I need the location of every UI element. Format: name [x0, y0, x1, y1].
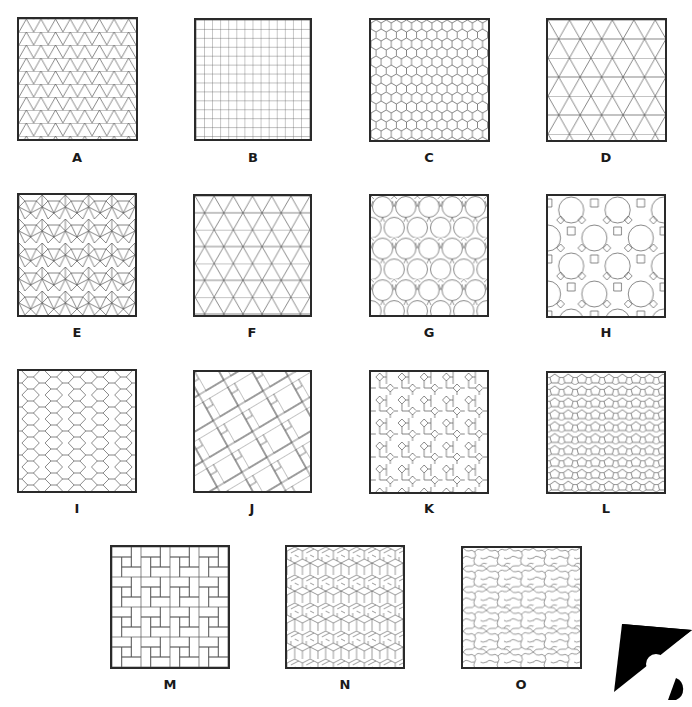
tile-j: [193, 370, 312, 493]
truncated-trihexagonal-pattern: [548, 196, 664, 316]
label-j: J: [232, 501, 272, 516]
hexagonal-pattern: [371, 20, 488, 140]
pythagorean-pattern: [195, 372, 310, 491]
trihexagonal-large-pattern: [548, 20, 665, 140]
tile-b: [194, 18, 312, 141]
label-n: N: [325, 677, 365, 692]
square-grid-pattern: [196, 20, 310, 139]
tile-f: [193, 194, 312, 317]
label-m: M: [150, 677, 190, 692]
label-c: C: [409, 150, 449, 165]
basketweave-pattern: [112, 547, 228, 667]
label-b: B: [233, 150, 273, 165]
tile-e: [17, 193, 137, 317]
label-f: F: [232, 325, 272, 340]
tile-n: [285, 545, 405, 669]
curved-escher-pattern: [463, 548, 580, 667]
interlocking-hexagonal-pattern: [287, 547, 403, 667]
tile-m: [110, 545, 230, 669]
tile-l: [546, 371, 666, 494]
logo-shape-icon: [614, 620, 692, 700]
label-l: L: [586, 501, 626, 516]
label-i: I: [57, 501, 97, 516]
label-e: E: [57, 325, 97, 340]
tile-d: [546, 18, 667, 142]
truncated-hexagonal-pattern: [371, 196, 487, 315]
squares-and-crosses-pattern: [371, 372, 487, 492]
snub-square-pattern: [19, 195, 135, 315]
label-o: O: [501, 677, 541, 692]
tile-g: [369, 194, 489, 317]
tile-k: [369, 370, 489, 494]
label-a: A: [57, 150, 97, 165]
cairo-pentagonal-pattern: [19, 371, 135, 491]
label-d: D: [586, 150, 626, 165]
label-k: K: [409, 501, 449, 516]
tile-h: [546, 194, 666, 318]
tile-o: [461, 546, 582, 669]
pentagon-dense-pattern: [548, 373, 664, 492]
tile-c: [369, 18, 490, 142]
label-g: G: [409, 325, 449, 340]
triangular-grid-pattern: [19, 19, 136, 139]
trihexagonal-pattern: [195, 196, 310, 315]
tile-i: [17, 369, 137, 493]
publisher-logo: [614, 620, 692, 700]
tile-a: [17, 17, 138, 141]
label-h: H: [586, 325, 626, 340]
